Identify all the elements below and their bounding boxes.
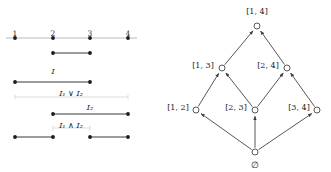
- axis-tick-label-4: 4: [126, 30, 131, 38]
- lattice-node-label-n13: [1, 3]: [192, 62, 214, 70]
- edge-n13-to-top: [225, 31, 253, 65]
- row-I1-endpoint-left-0: [13, 80, 17, 84]
- lattice-node-label-n24: [2, 4]: [257, 62, 279, 70]
- edge-n23-to-n13: [226, 73, 253, 107]
- lattice-node-n34[interactable]: [314, 107, 320, 113]
- axis-tick-label-1: 1: [13, 30, 18, 38]
- lattice-node-n24[interactable]: [284, 65, 290, 71]
- edge-n24-to-top: [261, 31, 285, 65]
- edge-n12-to-n13: [198, 73, 219, 106]
- interval-number-line-diagram: 1234II₁ ∨ I₂I₂I₁ ∧ I₂: [0, 0, 165, 172]
- row-bottom-pair-endpoint-left-1: [88, 135, 92, 139]
- lattice-node-label-n23: [2, 3]: [225, 104, 247, 112]
- lattice-node-top[interactable]: [254, 23, 260, 29]
- row-I1-endpoint-right-0: [88, 80, 92, 84]
- interval-lattice-hasse-diagram: [1, 4][1, 3][2, 4][1, 2][2, 3][3, 4]∅: [165, 0, 331, 172]
- axis-tick-label-2: 2: [51, 30, 56, 38]
- edge-n34-to-n24: [291, 73, 315, 107]
- figure-canvas: 1234II₁ ∨ I₂I₂I₁ ∧ I₂ [1, 4][1, 3][2, 4]…: [0, 0, 331, 172]
- row-bottom-pair-endpoint-right-1: [126, 135, 130, 139]
- edge-bottom-to-n34: [258, 113, 311, 149]
- lattice-node-label-bottom: ∅: [251, 161, 259, 170]
- lattice-node-n23[interactable]: [252, 107, 258, 113]
- axis-tick-label-3: 3: [88, 30, 93, 38]
- interval-number-line-svg: [0, 0, 165, 172]
- row-I1-join-I2-label: I₁ ∨ I₂: [59, 90, 83, 98]
- lattice-node-label-n34: [3, 4]: [288, 104, 310, 112]
- row-I1-label: I: [51, 68, 54, 76]
- row-I1-meet-I2-label: I₁ ∧ I₂: [59, 122, 83, 130]
- interval-lattice-hasse-svg: [165, 0, 331, 172]
- lattice-node-label-n12: [1, 2]: [167, 104, 189, 112]
- row-I2-endpoint-right-0: [126, 112, 130, 116]
- lattice-node-n12[interactable]: [193, 107, 199, 113]
- lattice-node-bottom[interactable]: [252, 149, 258, 155]
- edge-bottom-to-n12: [201, 114, 252, 150]
- row-interval-2-3-endpoint-right-0: [88, 51, 92, 55]
- lattice-node-n13[interactable]: [219, 65, 225, 71]
- row-bottom-pair-endpoint-right-0: [51, 135, 55, 139]
- lattice-node-label-top: [1, 4]: [246, 8, 268, 16]
- edge-n23-to-n24: [258, 73, 284, 107]
- row-bottom-pair-endpoint-left-0: [13, 135, 17, 139]
- row-I2-label: I₂: [87, 104, 93, 112]
- row-interval-2-3-endpoint-left-0: [51, 51, 55, 55]
- row-I2-endpoint-left-0: [51, 112, 55, 116]
